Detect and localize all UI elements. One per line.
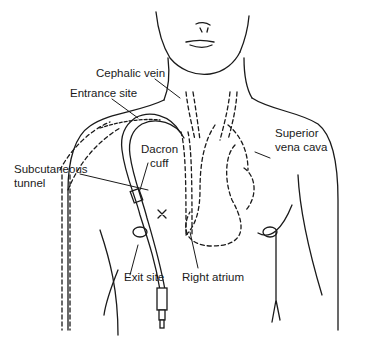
- label-right-atrium: Right atrium: [182, 271, 244, 284]
- label-superior-vena-cava-line1: Superior: [275, 127, 318, 140]
- leader-lines: [80, 79, 270, 275]
- label-dacron-cuff-line1: Dacron: [141, 143, 178, 156]
- label-subcutaneous-tunnel-line2: tunnel: [14, 177, 45, 190]
- dacron-cuff-shape: [130, 189, 143, 203]
- catheter-diagram: Cephalic vein Entrance site Superior ven…: [0, 0, 370, 345]
- label-exit-site: Exit site: [124, 271, 164, 284]
- catheter-hub: [159, 310, 165, 320]
- label-entrance-site: Entrance site: [70, 87, 137, 100]
- label-subcutaneous-tunnel-line1: Subcutaneous: [14, 163, 88, 176]
- label-dacron-cuff-line2: cuff: [150, 157, 168, 170]
- head-outline: [156, 12, 249, 74]
- catheter-connector: [157, 288, 167, 310]
- label-superior-vena-cava-line2: vena cava: [275, 141, 327, 154]
- label-cephalic-vein: Cephalic vein: [96, 67, 165, 80]
